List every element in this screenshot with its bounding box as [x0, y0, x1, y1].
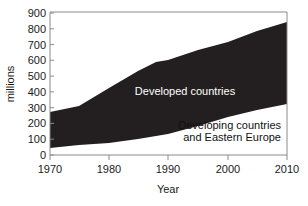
x-axis-title: Year — [157, 183, 180, 195]
x-axis-tick-labels: 1970 1980 1990 2000 2010 — [38, 163, 299, 175]
y-axis-tick-labels: 0 100 200 300 400 500 600 700 800 900 — [28, 7, 46, 161]
x-tick-label-1990: 1990 — [156, 163, 180, 175]
x-tick-label-1980: 1980 — [97, 163, 121, 175]
x-tick-label-2010: 2010 — [275, 163, 299, 175]
y-tick-label-700: 700 — [28, 39, 46, 51]
y-tick-label-500: 500 — [28, 70, 46, 82]
y-tick-label-300: 300 — [28, 102, 46, 114]
x-tick-label-1970: 1970 — [38, 163, 62, 175]
y-tick-label-900: 900 — [28, 7, 46, 19]
y-tick-label-100: 100 — [28, 133, 46, 145]
y-tick-label-600: 600 — [28, 54, 46, 66]
series-annotation-developing-countries-line2: and Eastern Europe — [183, 131, 281, 143]
y-axis-title: millions — [4, 65, 16, 102]
y-tick-label-0: 0 — [40, 149, 46, 161]
x-tick-label-2000: 2000 — [216, 163, 240, 175]
area-chart: 0 100 200 300 400 500 600 700 800 900 19… — [0, 0, 308, 206]
chart-container: 0 100 200 300 400 500 600 700 800 900 19… — [0, 0, 308, 206]
series-annotation-developing-countries-line1: Developing countries — [178, 119, 281, 131]
y-tick-label-800: 800 — [28, 23, 46, 35]
y-tick-label-400: 400 — [28, 86, 46, 98]
y-tick-label-200: 200 — [28, 117, 46, 129]
x-axis-ticks — [50, 155, 287, 160]
series-annotation-developed-countries: Developed countries — [135, 85, 236, 97]
